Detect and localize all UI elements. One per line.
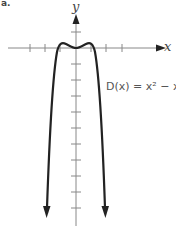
x-axis-arrow-icon [156,45,166,52]
curve-left-arrow-icon [43,206,51,218]
graph [0,0,176,228]
y-axis-arrow-icon [73,14,80,24]
curve-right-arrow-icon [102,206,110,218]
